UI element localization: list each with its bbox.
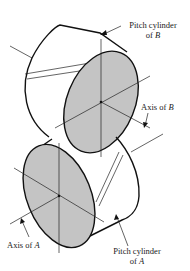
label-pitch-cylinder-a-line2: of A [104,257,170,267]
label-variable: B [168,102,173,112]
label-variable: B [155,30,160,40]
label-variable: A [139,256,144,266]
leader-axis-a [22,221,29,237]
label-pitch-cylinder-b: Pitch cylinder of B [120,21,186,40]
label-text: Axis of [7,240,34,250]
axis-a-back-line [131,134,163,152]
crossed-gears-diagram [0,0,190,271]
label-axis-a: Axis of A [7,241,40,251]
label-text: of [130,256,139,266]
helix-line-a-2 [99,155,123,206]
pitch-cylinder-b [10,25,152,164]
label-pitch-cylinder-a: Pitch cylinder of A [104,247,170,266]
label-pitch-cylinder-b-line2: of B [120,31,186,41]
label-text: of [146,30,155,40]
label-text: Axis of [141,102,168,112]
label-axis-b: Axis of B [141,103,174,113]
center-mark-a [58,195,61,198]
helix-line-a-1 [96,152,119,202]
arrowhead-pitch-b-icon [100,30,107,35]
leader-pitch-cylinder-a [117,217,128,246]
arrowhead-axis-a-icon [20,218,25,224]
axis-b-back-line [10,46,32,58]
center-mark-b [100,101,103,104]
arrowhead-pitch-a-icon [114,214,119,220]
arrowhead-axis-b-icon [143,122,148,128]
label-variable: A [34,240,39,250]
